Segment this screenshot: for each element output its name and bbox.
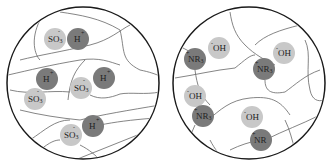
left-ions: SO3 - H + H + SO3 - H + SO3 - xyxy=(24,28,115,146)
svg-text:-: - xyxy=(37,88,39,94)
svg-text:H: H xyxy=(100,73,107,83)
ion-h-plus: H + xyxy=(36,68,58,90)
svg-text:-: - xyxy=(58,28,60,34)
svg-text:OH: OH xyxy=(213,43,226,53)
svg-text:H: H xyxy=(43,74,50,84)
svg-text:OH: OH xyxy=(189,91,202,101)
ion-so3: SO3 - xyxy=(24,88,46,110)
ion-hydroxide: - OH xyxy=(241,106,263,128)
svg-text:H: H xyxy=(74,34,81,44)
right-membrane-boundary xyxy=(173,7,325,159)
ion-nr3: + NR3 xyxy=(253,58,275,80)
svg-text:-: - xyxy=(73,124,75,130)
ion-nr3: + NR3 xyxy=(184,48,206,70)
ion-nr3: + NR xyxy=(250,129,272,151)
ion-h-plus: H + xyxy=(67,28,89,50)
ion-so3: SO3 - xyxy=(44,28,66,50)
svg-text:H: H xyxy=(89,121,96,131)
ion-nr3: + NR3 xyxy=(192,105,214,127)
ion-so3: SO3 - xyxy=(70,77,92,99)
svg-text:-: - xyxy=(83,77,85,83)
ion-h-plus: H + xyxy=(93,67,115,89)
svg-text:OH: OH xyxy=(278,48,291,58)
ion-so3: SO3 - xyxy=(60,124,82,146)
ion-hydroxide: - OH xyxy=(273,42,295,64)
ion-hydroxide: - OH xyxy=(184,85,206,107)
membrane-diagram: SO3 - H + H + SO3 - H + SO3 - xyxy=(0,0,332,166)
ion-hydroxide: - OH xyxy=(208,37,230,59)
ion-h-plus: H + xyxy=(82,115,104,137)
svg-text:OH: OH xyxy=(246,112,259,122)
svg-text:NR: NR xyxy=(254,135,267,145)
